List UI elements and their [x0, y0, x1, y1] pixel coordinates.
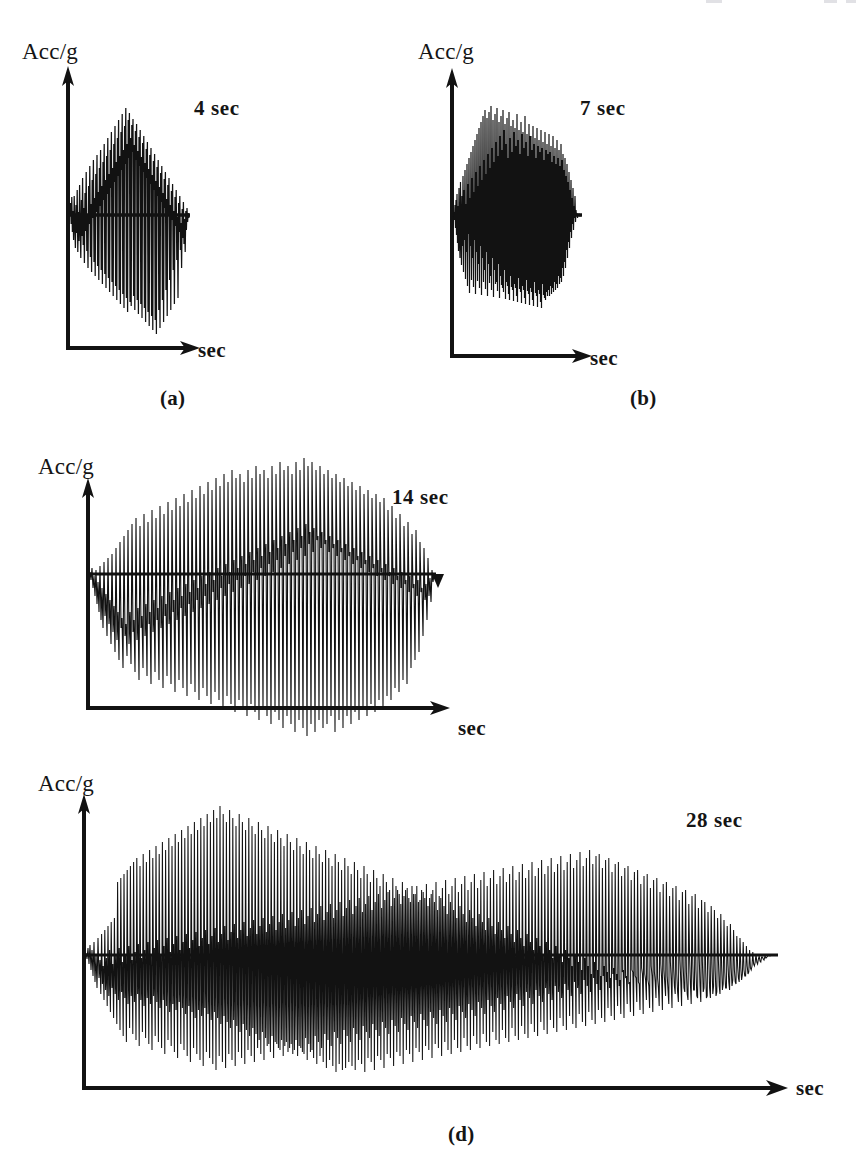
- panel-d-x-axis-label: sec: [796, 1078, 824, 1099]
- panel-a-waveform: [70, 108, 189, 334]
- panel-c-plot: [0, 430, 600, 760]
- panel-a: Acc/g 4 sec sec (a): [0, 0, 430, 420]
- panel-a-y-axis-label: Acc/g: [22, 40, 78, 63]
- panel-b-x-axis-label: sec: [590, 348, 618, 369]
- panel-b-y-axis-label: Acc/g: [418, 40, 474, 63]
- panel-a-x-axis-label: sec: [198, 340, 226, 361]
- panel-b: Acc/g 7 sec sec (b): [400, 0, 858, 420]
- figure-root: Acc/g 4 sec sec (a) Acc/g 7 sec sec (b): [0, 0, 858, 1160]
- panel-c-waveform: [90, 458, 435, 736]
- panel-c: Acc/g 14 sec sec: [0, 430, 600, 760]
- panel-d-duration-label: 28 sec: [686, 810, 743, 831]
- panel-d-y-axis-label: Acc/g: [38, 772, 94, 795]
- panel-d-caption: (d): [448, 1124, 475, 1145]
- panel-c-x-axis-label: sec: [458, 718, 486, 739]
- panel-a-caption: (a): [160, 388, 185, 409]
- panel-a-duration-label: 4 sec: [194, 98, 240, 119]
- panel-b-caption: (b): [630, 388, 657, 409]
- panel-d-waveform: [86, 806, 776, 1072]
- panel-b-duration-label: 7 sec: [580, 98, 626, 119]
- panel-d: Acc/g 28 sec sec (d): [0, 760, 858, 1160]
- panel-c-y-axis-label: Acc/g: [38, 455, 94, 478]
- panel-c-duration-label: 14 sec: [392, 487, 449, 508]
- panel-b-waveform: [454, 106, 581, 308]
